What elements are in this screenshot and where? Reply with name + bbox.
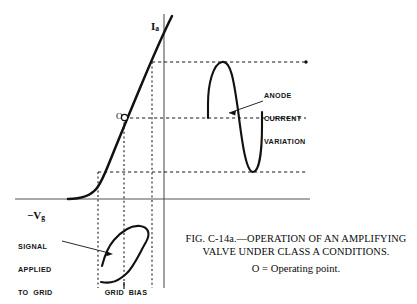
anode-current-variation-label: ANODE CURRENT VARIATION [264,76,344,161]
signal-label-line-1: SIGNAL [18,243,64,251]
anode-current-waveform [208,62,262,172]
caption-operating-point-note: O = Operating point. [178,263,414,274]
y-axis-label: Ia [140,9,159,45]
signal-label-line-2: APPLIED [18,266,64,274]
anode-variation-line-1: ANODE [264,92,344,100]
figure-caption: FIG. C-14a.—OPERATION OF AN AMPLIFYING V… [178,232,414,274]
caption-line-1: FIG. C-14a.—OPERATION OF AN AMPLIFYING [178,232,414,245]
caption-line-2: VALVE UNDER CLASS A CONDITIONS. [178,245,414,258]
signal-applied-to-grid-label: SIGNAL APPLIED TO GRID [18,227,64,304]
anode-variation-line-2: CURRENT [264,115,344,123]
grid-bias-label: GRID BIAS [98,289,154,297]
signal-label-line-3: TO GRID [18,289,64,297]
anode-variation-arrowhead [229,111,236,116]
grid-signal-arrowhead [106,251,113,256]
grid-signal-leader-line [62,241,109,253]
figure-container: Ia −Vg O ANODE CURRENT VARIATION SIGNAL … [0,0,417,304]
dashed-line-peak-end-dot [304,60,307,63]
operating-point-label: O [116,112,123,122]
anode-variation-line-3: VARIATION [264,138,344,146]
